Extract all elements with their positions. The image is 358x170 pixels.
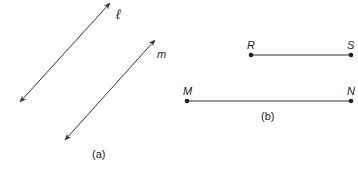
point-s [349, 53, 354, 58]
figure-a-caption: (a) [92, 148, 105, 160]
point-m [185, 99, 190, 104]
label-s: S [347, 39, 355, 51]
figure-b-caption: (b) [261, 110, 274, 122]
point-n [349, 99, 354, 104]
label-r: R [247, 39, 255, 51]
line-l [20, 3, 110, 102]
label-n: N [347, 85, 355, 97]
label-m: M [183, 85, 193, 97]
line-l-label: ℓ [115, 6, 121, 22]
diagram-canvas: ℓ m (a) R S M N (b) [0, 0, 358, 170]
figure-b: R S M N (b) [183, 39, 355, 122]
line-m [65, 40, 155, 140]
point-r [249, 53, 254, 58]
figure-a: ℓ m (a) [20, 3, 166, 160]
line-m-label: m [157, 48, 166, 60]
